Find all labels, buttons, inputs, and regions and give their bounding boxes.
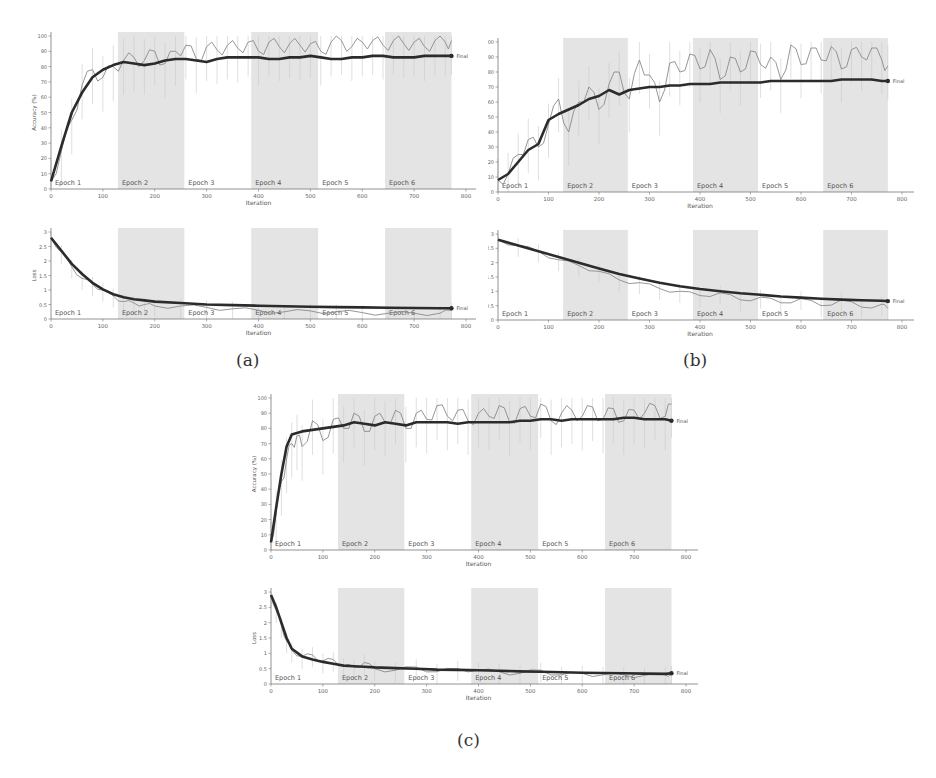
y-tick-label: 2.5 bbox=[259, 604, 267, 610]
chart-c-accuracy: Epoch 1Epoch 2Epoch 3Epoch 4Epoch 5Epoch… bbox=[252, 390, 700, 580]
y-tick-label: 70 bbox=[488, 84, 494, 90]
y-tick-label: 20 bbox=[261, 517, 267, 523]
y-tick-label: 0 bbox=[264, 681, 267, 687]
x-tick-label: 200 bbox=[594, 196, 605, 202]
epoch-label: Epoch 4 bbox=[697, 182, 723, 190]
x-tick-label: 100 bbox=[318, 554, 329, 560]
y-tick-label: 100 bbox=[488, 39, 494, 45]
y-tick-label: 2 bbox=[491, 260, 494, 266]
y-tick-label: 0.5 bbox=[259, 666, 267, 672]
y-tick-label: 90 bbox=[488, 54, 494, 60]
chart-a-accuracy: Epoch 1Epoch 2Epoch 3Epoch 4Epoch 5Epoch… bbox=[28, 26, 476, 218]
y-tick-label: 0.5 bbox=[488, 303, 494, 309]
y-tick-label: 3 bbox=[44, 229, 47, 235]
x-tick-label: 700 bbox=[629, 554, 640, 560]
epoch-label: Epoch 1 bbox=[55, 179, 81, 187]
x-axis-label: Iteration bbox=[687, 202, 713, 209]
y-tick-label: 50 bbox=[41, 110, 47, 116]
y-tick-label: 40 bbox=[261, 486, 267, 492]
y-tick-label: 30 bbox=[261, 501, 267, 507]
final-marker bbox=[449, 306, 453, 310]
final-marker bbox=[886, 299, 890, 303]
y-tick-label: 90 bbox=[41, 48, 47, 54]
x-tick-label: 0 bbox=[269, 688, 273, 694]
y-tick-label: 50 bbox=[261, 471, 267, 477]
y-tick-label: 100 bbox=[257, 395, 267, 401]
x-axis-label: Iteration bbox=[246, 199, 272, 206]
x-tick-label: 800 bbox=[461, 323, 472, 329]
x-tick-label: 0 bbox=[496, 196, 500, 202]
y-tick-label: 1 bbox=[44, 287, 47, 293]
y-tick-label: 20 bbox=[488, 159, 494, 165]
y-tick-label: 3 bbox=[264, 589, 267, 595]
epoch-label: Epoch 1 bbox=[275, 540, 301, 548]
epoch-label: Epoch 2 bbox=[342, 674, 368, 682]
x-tick-label: 200 bbox=[150, 193, 161, 199]
epoch-label: Epoch 2 bbox=[342, 540, 368, 548]
epoch-label: Epoch 4 bbox=[697, 310, 723, 318]
panel-a-loss: Epoch 1Epoch 2Epoch 3Epoch 4Epoch 5Epoch… bbox=[28, 224, 476, 342]
epoch-label: Epoch 4 bbox=[475, 540, 501, 548]
epoch-label: Epoch 6 bbox=[827, 182, 853, 190]
x-tick-label: 500 bbox=[305, 193, 316, 199]
y-tick-label: 40 bbox=[41, 125, 47, 131]
epoch-label: Epoch 2 bbox=[122, 179, 148, 187]
x-tick-label: 600 bbox=[357, 193, 368, 199]
x-tick-label: 800 bbox=[461, 193, 472, 199]
epoch-label: Epoch 4 bbox=[255, 179, 281, 187]
epoch-label: Epoch 2 bbox=[567, 182, 593, 190]
x-tick-label: 300 bbox=[644, 196, 655, 202]
epoch-label: Epoch 3 bbox=[188, 179, 214, 187]
y-tick-label: 0 bbox=[44, 316, 47, 322]
y-tick-label: 80 bbox=[41, 64, 47, 70]
x-tick-label: 300 bbox=[201, 323, 212, 329]
epoch-label: Epoch 3 bbox=[188, 309, 214, 317]
final-label: Final bbox=[676, 418, 688, 424]
x-tick-label: 600 bbox=[357, 323, 368, 329]
y-tick-label: 80 bbox=[261, 425, 267, 431]
epoch-label: Epoch 5 bbox=[542, 540, 568, 548]
x-tick-label: 200 bbox=[370, 688, 381, 694]
chart-a-loss: Epoch 1Epoch 2Epoch 3Epoch 4Epoch 5Epoch… bbox=[28, 224, 476, 342]
y-tick-label: 40 bbox=[488, 129, 494, 135]
epoch-shade bbox=[693, 230, 758, 320]
x-tick-label: 100 bbox=[98, 193, 109, 199]
epoch-label: Epoch 6 bbox=[827, 310, 853, 318]
epoch-label: Epoch 5 bbox=[322, 179, 348, 187]
x-tick-label: 300 bbox=[421, 554, 432, 560]
x-tick-label: 800 bbox=[897, 196, 908, 202]
epoch-label: Epoch 2 bbox=[122, 309, 148, 317]
y-tick-label: 60 bbox=[41, 94, 47, 100]
y-tick-label: 90 bbox=[261, 410, 267, 416]
y-tick-label: 20 bbox=[41, 155, 47, 161]
epoch-shade bbox=[471, 394, 538, 550]
y-axis-label: Accuracy (%) bbox=[31, 94, 38, 130]
y-tick-label: 60 bbox=[261, 456, 267, 462]
x-tick-label: 200 bbox=[150, 323, 161, 329]
epoch-shade bbox=[118, 32, 184, 189]
epoch-shade bbox=[823, 38, 888, 192]
x-tick-label: 800 bbox=[681, 554, 692, 560]
y-tick-label: 0 bbox=[264, 547, 267, 553]
chart-c-loss: Epoch 1Epoch 2Epoch 3Epoch 4Epoch 5Epoch… bbox=[252, 584, 700, 710]
y-tick-label: 0.5 bbox=[39, 302, 47, 308]
x-tick-label: 0 bbox=[49, 323, 53, 329]
x-tick-label: 600 bbox=[796, 196, 807, 202]
x-tick-label: 200 bbox=[370, 554, 381, 560]
y-tick-label: 70 bbox=[41, 79, 47, 85]
epoch-label: Epoch 1 bbox=[55, 309, 81, 317]
y-tick-label: 30 bbox=[41, 140, 47, 146]
panel-c: Epoch 1Epoch 2Epoch 3Epoch 4Epoch 5Epoch… bbox=[252, 390, 700, 580]
x-axis-label: Iteration bbox=[466, 694, 492, 701]
epoch-shade bbox=[693, 38, 758, 192]
x-tick-label: 500 bbox=[525, 554, 536, 560]
caption-c: (c) bbox=[457, 730, 480, 750]
x-tick-label: 300 bbox=[201, 193, 212, 199]
x-axis-label: Iteration bbox=[466, 560, 492, 567]
epoch-label: Epoch 3 bbox=[408, 674, 434, 682]
x-tick-label: 100 bbox=[543, 196, 554, 202]
x-tick-label: 300 bbox=[644, 324, 655, 330]
epoch-label: Epoch 5 bbox=[762, 310, 788, 318]
epoch-shade bbox=[338, 588, 404, 684]
epoch-shade bbox=[385, 228, 451, 319]
